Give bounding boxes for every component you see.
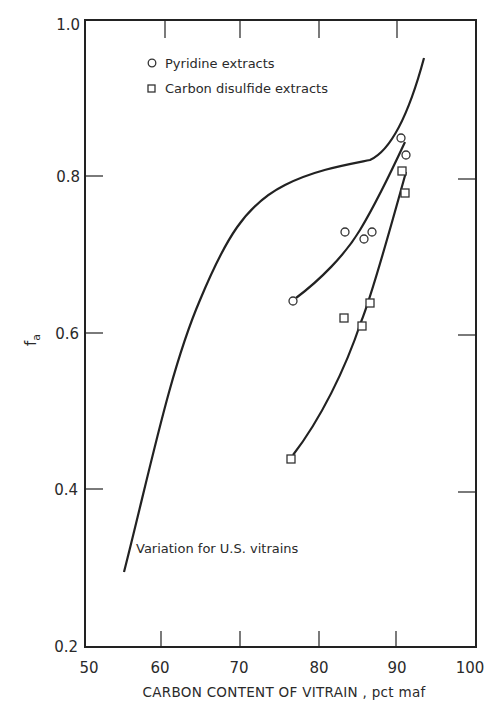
- pyridine-fit-curve: [296, 142, 405, 298]
- y-axis-title: fa: [22, 334, 43, 346]
- legend-label-pyridine: Pyridine extracts: [165, 56, 275, 71]
- y-tick-label: 0.2: [54, 638, 78, 656]
- data-point-circle: [368, 228, 376, 236]
- legend: Pyridine extracts Carbon disulfide extra…: [148, 56, 328, 96]
- vitrain-variation-curve: [124, 58, 424, 572]
- data-point-circle: [289, 297, 297, 305]
- y-tick-label: 0.8: [56, 168, 80, 186]
- data-point-square: [287, 455, 295, 463]
- chart: 1.0 0.8 0.6 0.4 0.2 50 60 70 80 90 100 C…: [0, 0, 501, 716]
- x-tick-label: 70: [229, 659, 248, 677]
- x-tick-label: 50: [79, 659, 98, 677]
- data-point-circle: [341, 228, 349, 236]
- y-tick-label: 0.4: [54, 481, 78, 499]
- data-point-circle: [402, 151, 410, 159]
- x-axis-title: CARBON CONTENT OF VITRAIN , pct maf: [142, 684, 426, 700]
- legend-square-icon: [148, 85, 155, 92]
- data-point-circle: [360, 235, 368, 243]
- carbon-disulfide-fit-curve: [293, 172, 406, 455]
- data-point-square: [366, 299, 374, 307]
- legend-label-carbon-disulfide: Carbon disulfide extracts: [165, 81, 328, 96]
- y-tick-labels: 1.0 0.8 0.6 0.4 0.2: [54, 16, 80, 656]
- data-point-square: [401, 189, 409, 197]
- y-ticks: [85, 176, 476, 492]
- x-tick-label: 80: [309, 659, 328, 677]
- x-tick-label: 100: [456, 659, 485, 677]
- y-tick-label: 1.0: [56, 16, 80, 34]
- svg-text:fa: fa: [22, 334, 43, 346]
- data-point-square: [398, 167, 406, 175]
- data-point-square: [340, 314, 348, 322]
- data-point-square: [358, 322, 366, 330]
- y-axis-title-sub: a: [30, 334, 43, 341]
- carbon-disulfide-points: [287, 167, 409, 463]
- data-point-circle: [397, 134, 405, 142]
- x-tick-labels: 50 60 70 80 90 100: [79, 659, 484, 677]
- legend-circle-icon: [148, 59, 156, 67]
- x-tick-label: 90: [387, 659, 406, 677]
- x-tick-label: 60: [150, 659, 169, 677]
- vitrain-variation-label: Variation for U.S. vitrains: [136, 541, 299, 556]
- y-tick-label: 0.6: [55, 325, 79, 343]
